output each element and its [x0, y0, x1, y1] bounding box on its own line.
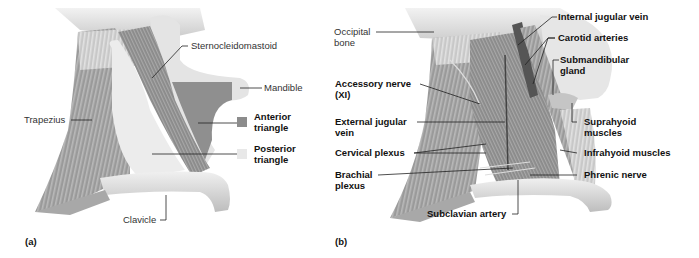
label-clavicle: Clavicle — [123, 215, 156, 226]
label-occipital-2: bone — [334, 38, 355, 49]
label-posterior-triangle-2: triangle — [254, 155, 288, 166]
clavicle-shape — [100, 172, 230, 212]
label-anterior-triangle-2: triangle — [254, 123, 288, 134]
label-ext-jugular-1: External jugular — [335, 117, 407, 128]
label-anterior-triangle-1: Anterior — [254, 112, 291, 123]
label-posterior-triangle-1: Posterior — [254, 144, 296, 155]
panel-label-b: (b) — [335, 236, 347, 247]
label-occipital-1: Occipital — [334, 27, 370, 38]
label-carotid: Carotid arteries — [558, 33, 628, 44]
label-sternocleidomastoid: Sternocleidomastoid — [191, 41, 277, 52]
label-cervical-plexus: Cervical plexus — [335, 148, 405, 159]
label-suprahyoid-2: muscles — [584, 128, 622, 139]
label-infrahyoid: Infrahyoid muscles — [584, 148, 671, 159]
clavicle-shape-b — [470, 178, 612, 212]
label-mandible: Mandible — [264, 83, 303, 94]
label-phrenic: Phrenic nerve — [584, 170, 647, 181]
label-internal-jugular: Internal jugular vein — [558, 12, 648, 23]
label-suprahyoid-1: Suprahyoid — [584, 117, 636, 128]
legend-swatch-anterior — [237, 117, 247, 127]
panel-label-a: (a) — [25, 236, 37, 247]
label-trapezius: Trapezius — [24, 115, 65, 126]
label-brachial-2: plexus — [335, 181, 365, 192]
legend-swatch-posterior — [237, 149, 247, 159]
leader-clavicle — [160, 195, 166, 220]
label-subclavian: Subclavian artery — [427, 209, 506, 220]
label-accessory-2: (XI) — [335, 90, 350, 101]
label-submandibular-2: gland — [560, 66, 585, 77]
label-ext-jugular-2: vein — [335, 128, 354, 139]
label-brachial-1: Brachial — [335, 170, 373, 181]
label-submandibular-1: Submandibular — [560, 55, 629, 66]
label-accessory-1: Accessory nerve — [335, 79, 411, 90]
